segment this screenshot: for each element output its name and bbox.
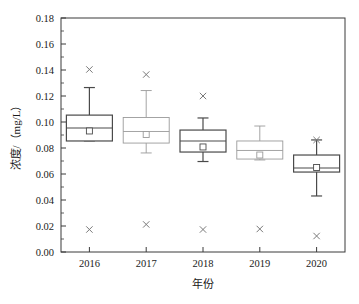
x-tick-label: 2018 <box>193 258 214 269</box>
x-tick-label: 2020 <box>306 258 327 269</box>
mean-marker <box>257 152 263 158</box>
y-tick-label: 0.00 <box>36 247 54 258</box>
boxplot-canvas: 0.000.020.040.060.080.100.120.140.160.18… <box>0 0 359 304</box>
boxplot-figure: 0.000.020.040.060.080.100.120.140.160.18… <box>0 0 359 304</box>
y-tick-label: 0.12 <box>36 91 54 102</box>
mean-marker <box>143 131 149 137</box>
x-tick-label: 2016 <box>79 258 100 269</box>
box-group-2019 <box>237 126 283 232</box>
y-tick-label: 0.16 <box>36 39 54 50</box>
box-iqr <box>123 117 169 143</box>
y-tick-label: 0.10 <box>36 117 54 128</box>
y-tick-label: 0.06 <box>36 169 54 180</box>
box-group-2016 <box>66 66 112 232</box>
x-tick-label: 2019 <box>249 258 270 269</box>
mean-marker <box>314 165 320 171</box>
y-tick-label: 0.08 <box>36 143 54 154</box>
x-tick-label: 2017 <box>136 258 157 269</box>
y-tick-label: 0.02 <box>36 221 54 232</box>
mean-marker <box>200 144 206 150</box>
y-tick-label: 0.04 <box>36 195 55 206</box>
y-tick-label: 0.14 <box>36 65 55 76</box>
box-group-2020 <box>294 137 340 239</box>
x-axis-title: 年份 <box>192 277 214 290</box>
mean-marker <box>86 128 92 134</box>
y-tick-label: 0.18 <box>36 13 54 24</box>
box-group-2017 <box>123 71 169 227</box>
box-group-2018 <box>180 93 226 233</box>
y-axis-title: 浓度/（mg/L） <box>9 100 22 171</box>
